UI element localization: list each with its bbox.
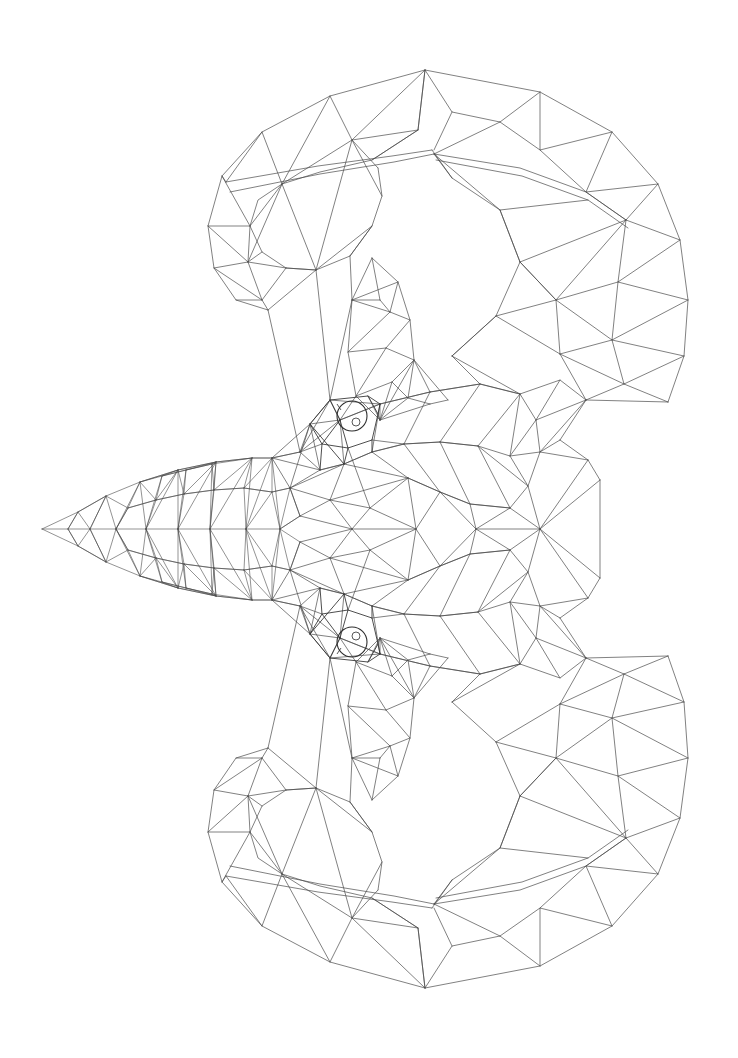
artboard: Low-poly wireframe ram head Symmetric lo… — [0, 0, 738, 1058]
wireframe-drawing — [0, 0, 738, 1058]
